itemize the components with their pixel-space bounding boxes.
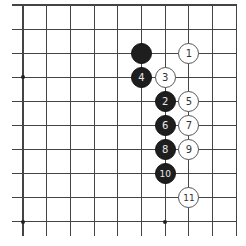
grid-line-vertical <box>236 5 237 236</box>
move-number: 4 <box>138 72 144 83</box>
move-number: 9 <box>186 144 192 155</box>
grid-line-vertical <box>117 5 118 236</box>
star-point <box>21 220 25 224</box>
white-stone: 3 <box>155 67 176 88</box>
move-number: 6 <box>162 120 168 131</box>
black-stone: 6 <box>155 115 176 136</box>
grid-line-vertical <box>46 5 47 236</box>
move-number: 1 <box>186 48 192 59</box>
move-number: 3 <box>162 72 168 83</box>
go-board: 1234567891011 <box>0 0 246 246</box>
black-stone: 8 <box>155 139 176 160</box>
move-number: 10 <box>159 169 170 179</box>
move-number: 5 <box>186 96 192 107</box>
grid-line-vertical <box>70 5 71 236</box>
star-point <box>163 220 167 224</box>
black-stone: 4 <box>131 67 152 88</box>
black-stone: 2 <box>155 91 176 112</box>
white-stone: 9 <box>178 139 199 160</box>
white-stone: 11 <box>178 187 199 208</box>
move-number: 7 <box>186 120 192 131</box>
black-stone <box>131 43 152 64</box>
grid-line-vertical <box>94 5 95 236</box>
white-stone: 5 <box>178 91 199 112</box>
star-point <box>21 75 25 79</box>
white-stone: 7 <box>178 115 199 136</box>
grid-line-vertical <box>22 5 23 236</box>
white-stone: 1 <box>178 43 199 64</box>
grid-line-vertical <box>141 5 142 236</box>
grid-line-vertical <box>212 5 213 236</box>
move-number: 8 <box>162 144 168 155</box>
black-stone: 10 <box>155 163 176 184</box>
move-number: 11 <box>183 193 194 203</box>
move-number: 2 <box>162 96 168 107</box>
